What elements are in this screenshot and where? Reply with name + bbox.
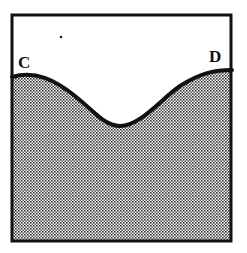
shaded-region	[12, 70, 232, 242]
diagram-figure: C D	[0, 0, 247, 253]
label-d: D	[209, 47, 221, 66]
stray-dot	[60, 36, 63, 39]
label-c: C	[18, 53, 30, 72]
